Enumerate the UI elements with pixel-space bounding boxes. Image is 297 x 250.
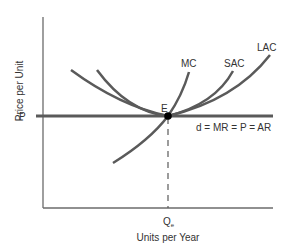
demand-label: d = MR = P = AR (196, 122, 271, 133)
y-axis-title: Price per Unit (14, 60, 25, 121)
mc-label: MC (181, 58, 197, 69)
lac-label: LAC (257, 42, 276, 53)
perfect-competition-long-run-equilibrium-chart: E MC SAC LAC d = MR = P = AR P Qe Units … (0, 0, 297, 250)
sac-label: SAC (224, 58, 245, 69)
equilibrium-label: E (161, 103, 168, 114)
quantity-tick-label: Qe (163, 216, 175, 228)
x-axis-title: Units per Year (137, 232, 200, 243)
